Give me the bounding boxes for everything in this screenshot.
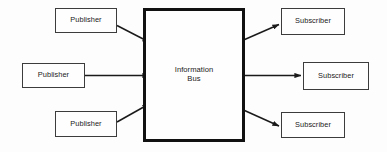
subscriber-node-top[interactable]: Subscriber: [281, 8, 345, 35]
publisher-node-bottom-label: Publisher: [70, 120, 101, 129]
information-bus-label-line1: Information: [175, 65, 214, 74]
publisher-node-top-label: Publisher: [70, 16, 101, 25]
subscriber-node-middle[interactable]: Subscriber: [303, 62, 369, 90]
subscriber-node-bottom-label: Subscriber: [295, 121, 331, 130]
diagram-canvas: Publisher Publisher Publisher Informatio…: [0, 0, 387, 152]
subscriber-node-middle-label: Subscriber: [318, 72, 354, 81]
publisher-node-middle[interactable]: Publisher: [22, 63, 85, 88]
edge-bus-to-subscriber-1: [239, 25, 279, 43]
subscriber-node-top-label: Subscriber: [295, 17, 331, 26]
publisher-node-middle-label: Publisher: [38, 71, 69, 80]
publisher-node-bottom[interactable]: Publisher: [55, 111, 117, 137]
edge-bus-to-subscriber-3: [239, 108, 279, 126]
information-bus-label-line2: Bus: [175, 75, 214, 84]
subscriber-node-bottom[interactable]: Subscriber: [281, 112, 345, 138]
publisher-node-top[interactable]: Publisher: [55, 8, 117, 33]
information-bus-node[interactable]: Information Bus: [143, 8, 245, 142]
information-bus-label: Information Bus: [175, 66, 214, 84]
